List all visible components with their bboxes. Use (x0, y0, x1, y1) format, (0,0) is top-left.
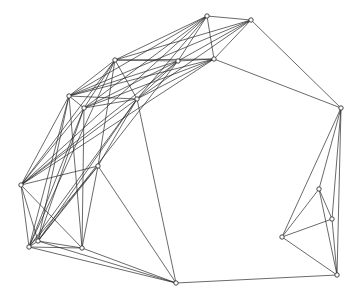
graph-node (249, 18, 253, 22)
graph-node (330, 217, 334, 221)
network-diagram (0, 0, 359, 299)
graph-node (176, 59, 180, 63)
graph-edge (115, 20, 251, 60)
graph-node (280, 235, 284, 239)
graph-edge (38, 166, 98, 241)
graph-node (317, 187, 321, 191)
graph-node (339, 106, 343, 110)
graph-edge (38, 108, 84, 241)
graph-node (36, 239, 40, 243)
graph-edge (21, 185, 29, 247)
graph-edge (282, 219, 332, 237)
graph-edge (29, 247, 176, 283)
graph-node (19, 183, 23, 187)
graph-edge (84, 61, 178, 108)
graph-edge (82, 248, 176, 283)
graph-node (205, 14, 209, 18)
graph-node (212, 57, 216, 61)
graph-node (82, 106, 86, 110)
graph-node (113, 58, 117, 62)
graph-edge (207, 16, 214, 59)
graph-edge (137, 61, 178, 99)
graph-edge (332, 219, 337, 275)
graph-node (135, 97, 139, 101)
graph-edge (214, 59, 341, 108)
graph-node (80, 246, 84, 250)
graph-edge (29, 60, 115, 247)
graph-edge (29, 96, 69, 247)
graph-edge (84, 99, 137, 108)
graph-node (96, 164, 100, 168)
graph-edge (21, 99, 137, 185)
graph-edge (69, 96, 84, 108)
graph-edge (21, 59, 214, 185)
graph-edge (29, 247, 82, 248)
graph-edge (282, 237, 337, 275)
graph-svg (0, 0, 359, 299)
graph-edge (21, 60, 115, 185)
graph-edge (82, 166, 98, 248)
graph-edge (137, 99, 176, 283)
graph-edge (84, 60, 115, 108)
graph-edge (251, 20, 341, 108)
graph-node (335, 273, 339, 277)
edges-layer (21, 16, 341, 283)
graph-edge (176, 275, 337, 283)
graph-node (174, 281, 178, 285)
graph-edge (319, 189, 337, 275)
graph-edge (207, 16, 251, 20)
graph-node (67, 94, 71, 98)
graph-edge (137, 59, 214, 99)
graph-edge (98, 166, 176, 283)
graph-edge (115, 60, 178, 61)
graph-edge (319, 189, 332, 219)
graph-node (27, 245, 31, 249)
